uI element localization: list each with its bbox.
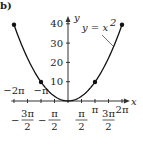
x-tick-label-numerator: π [78, 108, 85, 119]
x-tick-label: π [92, 104, 99, 115]
y-tick-label: 40 [50, 18, 63, 29]
y-axis-arrow [66, 16, 71, 22]
y-tick-label: 30 [50, 38, 63, 49]
x-tick-label-minus: − [11, 115, 19, 126]
x-tick-label-minus: − [38, 115, 46, 126]
x-tick-label: −2π [3, 85, 25, 96]
ticks: 10203040−2π3π2−−ππ2−π2π3π22π [3, 18, 129, 132]
x-tick-label-numerator: π [51, 108, 58, 119]
x-tick-label-denominator: 2 [24, 121, 30, 132]
data-point [12, 23, 16, 27]
x-tick-label-numerator: 3π [21, 108, 34, 119]
panel-label: b) [0, 0, 12, 11]
y-tick-label: 10 [50, 76, 63, 87]
data-point [93, 80, 97, 84]
x-tick-label-numerator: 3π [102, 108, 115, 119]
curve-label-leader [102, 35, 113, 46]
x-tick-label: −π [34, 85, 49, 96]
data-point [120, 23, 124, 27]
axes: xy [11, 12, 137, 107]
x-tick-label-denominator: 2 [51, 121, 57, 132]
y-axis-label: y [73, 12, 80, 23]
y-tick-label: 20 [50, 57, 63, 68]
data-point [39, 80, 43, 84]
annotations: y = x2 [81, 17, 116, 46]
curve-label-exponent: 2 [109, 17, 116, 28]
x-tick-label-denominator: 2 [78, 121, 84, 132]
x-tick-label: 2π [116, 104, 129, 115]
x-axis-arrow [124, 99, 130, 104]
x-axis-label: x [131, 96, 137, 107]
x-tick-label-denominator: 2 [105, 121, 111, 132]
curve-label: y = x [81, 22, 108, 33]
chart: b) xy 10203040−2π3π2−−ππ2−π2π3π22π y = x… [0, 0, 143, 157]
